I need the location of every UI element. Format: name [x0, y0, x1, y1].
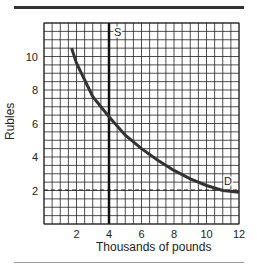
- svg-text:12: 12: [233, 228, 245, 240]
- svg-text:2: 2: [32, 185, 38, 197]
- y-tick-labels: 108642: [26, 51, 38, 197]
- demand-label: D: [224, 175, 232, 187]
- svg-text:4: 4: [32, 151, 38, 163]
- svg-text:2: 2: [73, 228, 79, 240]
- svg-text:8: 8: [171, 228, 177, 240]
- y-axis-label: Rubles: [3, 103, 17, 140]
- bottom-rule: [14, 262, 244, 263]
- svg-text:10: 10: [200, 228, 212, 240]
- x-axis-label: Thousands of pounds: [96, 240, 211, 254]
- chart-svg: S D 24681012 108642: [0, 0, 257, 269]
- svg-text:6: 6: [32, 118, 38, 130]
- demand-curve: [72, 48, 239, 192]
- svg-text:10: 10: [26, 51, 38, 63]
- svg-text:8: 8: [32, 84, 38, 96]
- supply-label: S: [114, 26, 121, 38]
- svg-text:4: 4: [106, 228, 112, 240]
- x-tick-labels: 24681012: [73, 228, 245, 240]
- svg-text:6: 6: [138, 228, 144, 240]
